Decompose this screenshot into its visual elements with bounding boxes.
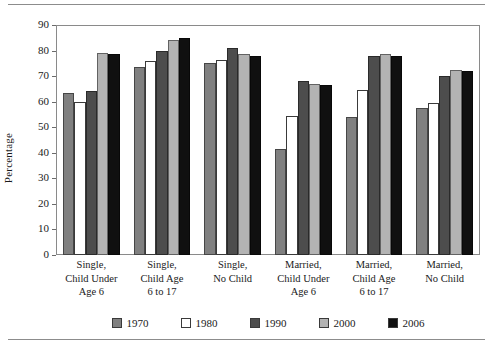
bar-1990: [439, 76, 450, 255]
y-tick-label: 30: [38, 170, 49, 185]
y-tick-50: 50: [0, 127, 56, 128]
bar-2000: [450, 70, 461, 255]
bar-1980: [216, 60, 227, 256]
y-tick-label: 60: [38, 94, 49, 109]
bar-chart-figure: Percentage 9080706050403020100 Single,Ch…: [0, 0, 493, 350]
bar-1970: [416, 108, 427, 255]
x-category-line: Age 6: [56, 285, 127, 299]
bar-1980: [74, 102, 85, 255]
x-category-label: Single,Child UnderAge 6: [56, 258, 127, 299]
bar-1970: [134, 67, 145, 255]
y-tick-80: 80: [0, 51, 56, 52]
y-tick-40: 40: [0, 153, 56, 154]
bar-2006: [391, 56, 402, 255]
x-category-line: No Child: [409, 272, 480, 286]
x-category-label: Single,Child Age6 to 17: [127, 258, 198, 299]
bar-1980: [357, 90, 368, 255]
bar-2006: [108, 54, 119, 255]
x-category-line: Single,: [127, 258, 198, 272]
bar-1980: [428, 103, 439, 255]
y-tick-label: 80: [38, 43, 49, 58]
x-category-line: Child Under: [56, 272, 127, 286]
legend-label: 1970: [127, 317, 149, 329]
bar-1990: [227, 48, 238, 255]
y-tick-label: 0: [44, 247, 50, 262]
x-category-line: 6 to 17: [339, 285, 410, 299]
legend-label: 1990: [265, 317, 287, 329]
bar-2006: [320, 85, 331, 255]
top-divider-rule: [8, 4, 485, 5]
bar-2000: [238, 54, 249, 255]
legend-swatch-icon: [388, 318, 398, 328]
legend-item-2006[interactable]: 2006: [388, 317, 425, 329]
bar-2000: [380, 54, 391, 255]
bar-1980: [286, 116, 297, 255]
bottom-divider-rule: [8, 339, 485, 340]
bar-1970: [275, 149, 286, 255]
chart-legend: 19701980199020002006: [56, 313, 480, 333]
bar-2006: [250, 56, 261, 255]
bar-group: [275, 25, 332, 255]
x-category-line: No Child: [197, 272, 268, 286]
y-tick-30: 30: [0, 178, 56, 179]
legend-swatch-icon: [112, 318, 122, 328]
legend-item-1980[interactable]: 1980: [181, 317, 218, 329]
x-category-line: Child Age: [339, 272, 410, 286]
x-category-line: Child Age: [127, 272, 198, 286]
bar-2000: [309, 84, 320, 255]
bar-group: [63, 25, 120, 255]
x-category-label: Married,No Child: [409, 258, 480, 285]
bar-1980: [145, 61, 156, 255]
legend-swatch-icon: [250, 318, 260, 328]
bar-2006: [179, 38, 190, 255]
bar-1990: [298, 81, 309, 255]
y-tick-label: 40: [38, 145, 49, 160]
bar-group: [416, 25, 473, 255]
y-tick-20: 20: [0, 204, 56, 205]
x-axis-category-labels: Single,Child UnderAge 6Single,Child Age6…: [56, 258, 480, 304]
y-tick-60: 60: [0, 102, 56, 103]
bar-1990: [368, 56, 379, 255]
bar-1970: [346, 117, 357, 255]
y-tick-label: 50: [38, 119, 49, 134]
legend-item-2000[interactable]: 2000: [319, 317, 356, 329]
y-tick-mark: [52, 255, 56, 256]
legend-swatch-icon: [319, 318, 329, 328]
bar-2006: [462, 71, 473, 255]
y-tick-90: 90: [0, 25, 56, 26]
y-tick-label: 10: [38, 221, 49, 236]
y-tick-label: 70: [38, 68, 49, 83]
x-category-label: Single,No Child: [197, 258, 268, 285]
y-tick-70: 70: [0, 76, 56, 77]
x-category-line: 6 to 17: [127, 285, 198, 299]
legend-label: 1980: [196, 317, 218, 329]
bar-group: [134, 25, 191, 255]
x-category-line: Married,: [409, 258, 480, 272]
bar-2000: [97, 53, 108, 255]
legend-swatch-icon: [181, 318, 191, 328]
bar-group: [204, 25, 261, 255]
x-category-line: Married,: [268, 258, 339, 272]
x-category-line: Single,: [197, 258, 268, 272]
y-axis-title: Percentage: [2, 98, 14, 218]
legend-label: 2000: [334, 317, 356, 329]
x-category-label: Married,Child UnderAge 6: [268, 258, 339, 299]
legend-item-1970[interactable]: 1970: [112, 317, 149, 329]
bar-1970: [63, 93, 74, 255]
y-tick-10: 10: [0, 229, 56, 230]
x-category-label: Married,Child Age6 to 17: [339, 258, 410, 299]
y-tick-label: 90: [38, 17, 49, 32]
bar-1990: [156, 51, 167, 255]
y-tick-0: 0: [0, 255, 56, 256]
bar-1990: [86, 91, 97, 255]
x-category-line: Single,: [56, 258, 127, 272]
bar-series-container: [56, 25, 480, 255]
x-category-line: Married,: [339, 258, 410, 272]
x-category-line: Age 6: [268, 285, 339, 299]
bar-group: [346, 25, 403, 255]
bar-1970: [204, 63, 215, 255]
legend-item-1990[interactable]: 1990: [250, 317, 287, 329]
y-tick-label: 20: [38, 196, 49, 211]
legend-label: 2006: [403, 317, 425, 329]
bar-2000: [168, 40, 179, 255]
